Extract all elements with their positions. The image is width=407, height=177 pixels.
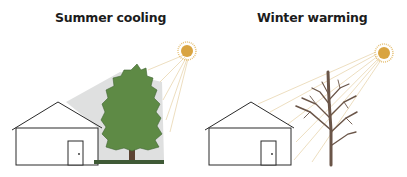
winter-panel bbox=[205, 44, 393, 165]
grass-strip bbox=[94, 160, 164, 164]
bare-tree-icon bbox=[296, 72, 357, 165]
house-icon bbox=[205, 102, 294, 165]
sun-icon bbox=[178, 42, 196, 60]
summer-panel bbox=[12, 42, 196, 165]
shading-diagram bbox=[0, 0, 407, 177]
